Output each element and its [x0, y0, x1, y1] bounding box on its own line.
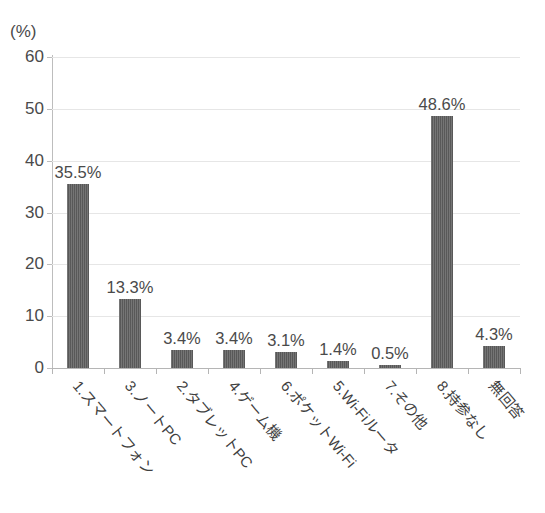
bar-value-label: 1.4%	[313, 341, 363, 358]
x-axis-tick-mark	[156, 368, 157, 374]
y-axis-tick-label: 50	[2, 100, 44, 117]
x-axis-category-label: 8.持参なし	[435, 378, 493, 443]
x-axis-tick-mark	[52, 368, 53, 374]
bar-value-label: 4.3%	[469, 326, 519, 343]
bar-chart: (%) 0102030405060 35.5%13.3%3.4%3.4%3.1%…	[0, 0, 545, 513]
y-axis-tick-label: 10	[2, 307, 44, 324]
bar-value-label: 3.1%	[261, 332, 311, 349]
bar-value-label: 0.5%	[365, 345, 415, 362]
x-axis-tick-mark	[416, 368, 417, 374]
bar	[431, 116, 453, 368]
x-axis-tick-mark	[520, 368, 521, 374]
y-axis-tick-label: 30	[2, 204, 44, 221]
x-axis-tick-mark	[208, 368, 209, 374]
bar	[119, 299, 141, 368]
x-axis-category-label: 無回答	[487, 378, 527, 422]
x-axis-tick-mark	[260, 368, 261, 374]
x-axis-tick-mark	[104, 368, 105, 374]
bar	[275, 352, 297, 368]
bar-value-label: 35.5%	[53, 164, 103, 181]
y-axis-tick-label: 60	[2, 48, 44, 65]
bar	[223, 350, 245, 368]
bar-value-label: 3.4%	[209, 330, 259, 347]
bar-value-label: 13.3%	[105, 279, 155, 296]
y-axis-tick-label: 40	[2, 152, 44, 169]
x-axis-tick-mark	[364, 368, 365, 374]
bar	[379, 365, 401, 368]
bar	[171, 350, 193, 368]
bar-value-label: 48.6%	[417, 96, 467, 113]
x-axis-tick-mark	[312, 368, 313, 374]
x-axis-tick-mark	[468, 368, 469, 374]
bar	[483, 346, 505, 368]
bar-value-label: 3.4%	[157, 330, 207, 347]
x-axis-line	[52, 368, 521, 369]
y-axis-unit-label: (%)	[10, 22, 36, 42]
x-axis-category-label: 7.その他	[383, 378, 431, 432]
x-axis-category-label: 4.ゲーム機	[227, 378, 285, 443]
bar	[327, 361, 349, 368]
y-axis-tick-label: 0	[2, 359, 44, 376]
y-axis-tick-label: 20	[2, 255, 44, 272]
bar	[67, 184, 89, 368]
